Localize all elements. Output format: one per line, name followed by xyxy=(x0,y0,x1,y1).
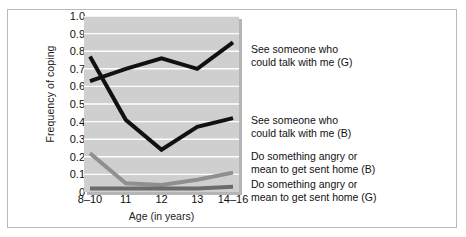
y-axis-tick-labels: 00.10.20.30.40.50.60.70.80.91.0 xyxy=(55,16,85,192)
series-label-line: could talk with me (B) xyxy=(251,127,351,140)
series-label-see-someone-g: See someone who could talk with me (G) xyxy=(251,43,353,68)
series-label-see-someone-b: See someone who could talk with me (B) xyxy=(251,114,351,139)
x-axis-tick-labels: 8–1011121314–16 xyxy=(84,194,239,208)
y-tick-label: 0.5 xyxy=(70,99,85,110)
y-tick-label: 0.2 xyxy=(70,151,85,162)
series-label-do-something-angry-g: Do something angry or mean to get sent h… xyxy=(251,178,376,203)
series-label-line: Do something angry or xyxy=(251,178,376,191)
x-tick-label: 11 xyxy=(120,194,131,205)
x-axis-title: Age (in years) xyxy=(84,210,239,222)
series-label-do-something-angry-b: Do something angry or mean to get sent h… xyxy=(251,150,375,175)
series-line-3 xyxy=(90,187,233,189)
series-label-line: See someone who xyxy=(251,43,353,56)
series-label-line: mean to get sent home (G) xyxy=(251,191,376,204)
y-tick-label: 0.4 xyxy=(70,116,85,127)
series-line-0 xyxy=(90,42,233,81)
y-tick-label: 0.3 xyxy=(70,134,85,145)
y-tick-label: 0.1 xyxy=(70,169,85,180)
y-tick-label: 0.7 xyxy=(70,63,85,74)
y-tick-label: 0.9 xyxy=(70,28,85,39)
x-tick-label: 8–10 xyxy=(78,194,102,205)
x-tick-label: 13 xyxy=(191,194,203,205)
plot-area xyxy=(84,16,239,192)
series-line-1 xyxy=(90,56,233,149)
x-tick-label: 12 xyxy=(155,194,167,205)
y-tick-label: 0.6 xyxy=(70,81,85,92)
series-label-line: Do something angry or xyxy=(251,150,375,163)
y-tick-label: 0.8 xyxy=(70,46,85,57)
plot-svg xyxy=(84,16,239,192)
y-tick-label: 1.0 xyxy=(70,11,85,22)
series-label-line: could talk with me (G) xyxy=(251,56,353,69)
chart-figure: Frequency of coping 00.10.20.30.40.50.60… xyxy=(7,9,457,228)
series-label-line: mean to get sent home (B) xyxy=(251,163,375,176)
series-line-2 xyxy=(90,153,233,185)
x-tick-label: 14–16 xyxy=(218,194,249,205)
series-label-line: See someone who xyxy=(251,114,351,127)
